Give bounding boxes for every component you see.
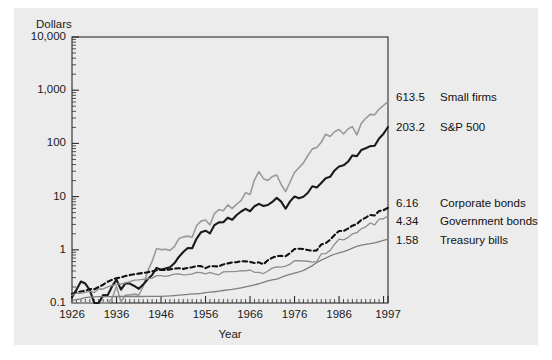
series-line [72,239,388,300]
series-line [72,208,388,294]
series-line [72,216,388,295]
chart-root: Dollars Year 10,0001,0001001010.11926193… [0,0,552,360]
series-name-label: Corporate bonds [440,197,526,209]
series-end-value: 6.16 [396,197,418,209]
series-line [72,127,388,303]
series-line [72,101,388,303]
y-tick-label: 100 [6,136,66,148]
y-tick-label: 1,000 [6,83,66,95]
x-tick-label: 1997 [358,308,418,320]
y-tick-label: 1 [6,243,66,255]
y-axis-ticks [72,37,79,303]
series-end-value: 203.2 [396,121,425,133]
y-tick-label: 10 [6,190,66,202]
y-tick-label: 10,000 [6,30,66,42]
y-tick-label: 0.1 [6,296,66,308]
series-name-label: Government bonds [440,215,538,227]
chart-svg [0,0,552,360]
series-end-value: 1.58 [396,234,418,246]
series-name-label: Treasury bills [440,234,508,246]
series-end-value: 4.34 [396,215,418,227]
series-name-label: S&P 500 [440,121,485,133]
series-name-label: Small firms [440,91,497,103]
series-end-value: 613.5 [396,91,425,103]
